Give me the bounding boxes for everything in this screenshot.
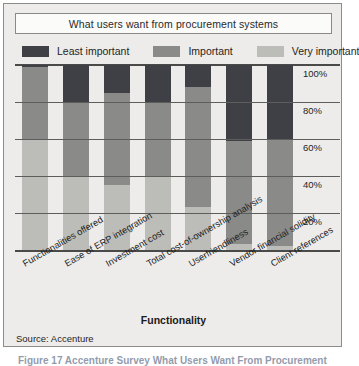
- gridline: [15, 139, 340, 140]
- legend-label: Very important: [292, 45, 359, 57]
- bars-layer: [15, 65, 300, 250]
- bar-segment: [185, 65, 211, 87]
- page-title: What users want from procurement systems: [69, 18, 278, 30]
- legend-item: Important: [153, 45, 232, 57]
- legend-item: Very important: [257, 45, 359, 57]
- legend-label: Least important: [57, 45, 129, 57]
- y-axis-tick-label: 80%: [303, 105, 322, 116]
- chart-panel: What users want from procurement systems…: [3, 3, 342, 347]
- legend-swatch-icon: [153, 46, 180, 57]
- chart-title-box: What users want from procurement systems: [15, 13, 332, 34]
- bar-segment: [22, 65, 48, 67]
- bar-column: [145, 65, 171, 250]
- y-axis-tick-label: 60%: [303, 142, 322, 153]
- bar-segment: [185, 87, 211, 207]
- bar-column: [22, 65, 48, 250]
- bar-column: [267, 65, 293, 250]
- legend-item: Least important: [22, 45, 129, 57]
- bar-segment: [145, 65, 171, 102]
- gridline: [15, 176, 340, 177]
- bar-segment: [63, 65, 89, 102]
- bar-column: [185, 65, 211, 250]
- chart-legend: Least importantImportantVery important: [15, 42, 340, 60]
- source-note: Source: Accenture: [16, 333, 94, 344]
- legend-swatch-icon: [257, 46, 284, 57]
- legend-swatch-icon: [22, 46, 49, 57]
- gridline: [15, 213, 340, 214]
- bar-segment: [22, 139, 48, 250]
- x-axis-title: Functionality: [4, 314, 343, 326]
- legend-label: Important: [188, 45, 232, 57]
- gridline: [15, 102, 340, 103]
- y-axis-tick-label: 40%: [303, 179, 322, 190]
- figure-caption: Figure 17 Accenture Survey What Users Wa…: [18, 355, 348, 366]
- y-axis-tick-label: 100%: [303, 68, 327, 79]
- bar-segment: [104, 65, 130, 93]
- category-axis-labels: Functionalities offeredEase of ERP integ…: [15, 252, 340, 314]
